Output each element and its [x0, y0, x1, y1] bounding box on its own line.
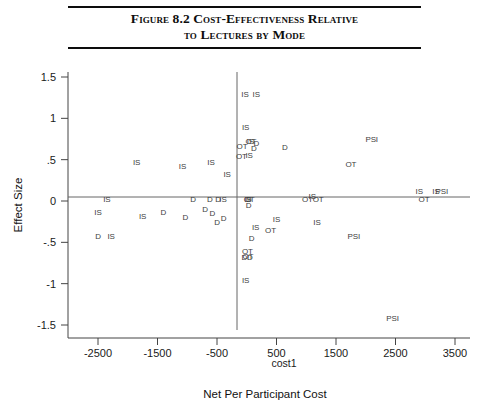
data-markers-group: ISISISISISISISISISISISISISISISISISISISIS… — [94, 90, 448, 324]
x-tick-label: 3500 — [443, 347, 467, 359]
y-tick-label: -1 — [46, 278, 56, 290]
data-point-OT: OT — [265, 226, 276, 235]
data-point-IS: IS — [223, 170, 230, 179]
figure-title-block: Figure 8.2 Cost-Effectiveness Relative t… — [68, 6, 421, 49]
data-point-D: D — [190, 195, 196, 204]
x-tick-label: 1500 — [324, 347, 348, 359]
page-title: Figure 8.2 Cost-Effectiveness Relative t… — [68, 8, 421, 46]
data-point-PSI: PSI — [348, 232, 361, 241]
data-point-D: D — [95, 232, 101, 241]
data-point-IS: IS — [242, 276, 249, 285]
figure-container: Figure 8.2 Cost-Effectiveness Relative t… — [0, 0, 487, 408]
y-axis-ticks: 1.51.50-.5-1-1.5 — [37, 71, 68, 331]
data-point-IS: IS — [179, 162, 186, 171]
reference-lines-group — [68, 72, 470, 330]
data-point-IS: IS — [242, 123, 249, 132]
data-point-D: D — [282, 143, 288, 152]
data-point-D: D — [161, 208, 167, 217]
data-point-D: D — [215, 195, 221, 204]
series-PSI: PSIPSIPSIPSI — [348, 135, 449, 323]
data-point-OT: OT — [313, 195, 324, 204]
data-point-D: D — [249, 234, 255, 243]
data-point-IS: IS — [139, 212, 146, 221]
y-tick-label: -1.5 — [37, 319, 56, 331]
y-tick-label: 1 — [50, 112, 56, 124]
axes-group — [68, 72, 470, 338]
data-point-PSI: PSI — [365, 135, 378, 144]
data-point-D: D — [202, 205, 208, 214]
data-point-IS: IS — [253, 90, 260, 99]
x-tick-label: 2500 — [383, 347, 407, 359]
x-tick-label: -500 — [206, 347, 228, 359]
data-point-OT: OT — [302, 195, 313, 204]
x-axis-ticks: -2500-1500-500500150025003500 — [84, 338, 467, 359]
data-point-OT: OT — [244, 195, 255, 204]
data-point-D: D — [221, 214, 227, 223]
scatter-plot-svg: 1.51.50-.5-1-1.5 -2500-1500-500500150025… — [0, 58, 487, 408]
data-point-IS: IS — [313, 218, 320, 227]
data-point-D: D — [207, 195, 213, 204]
data-point-IS: IS — [207, 158, 214, 167]
y-axis-title: Effect Size — [12, 178, 24, 233]
data-point-OT: OT — [345, 160, 356, 169]
data-point-IS: IS — [133, 158, 140, 167]
chart-plot-area: 1.51.50-.5-1-1.5 -2500-1500-500500150025… — [0, 58, 487, 408]
data-point-IS: IS — [252, 223, 259, 232]
data-point-IS: IS — [273, 215, 280, 224]
x-tick-label: -2500 — [84, 347, 112, 359]
data-point-OT: OT — [237, 142, 248, 151]
data-point-IS: IS — [94, 208, 101, 217]
y-tick-label: .5 — [47, 154, 56, 166]
y-tick-label: -.5 — [43, 236, 56, 248]
series-OT: OTOTOTOTOTOTOTOTOTOTOT — [236, 137, 430, 261]
data-point-D: D — [214, 218, 220, 227]
title-line-2: to Lectures by Mode — [68, 27, 421, 43]
data-point-OT: OT — [236, 152, 247, 161]
data-point-PSI: PSI — [386, 314, 399, 323]
data-point-PSI: PSI — [436, 187, 449, 196]
x-tick-label: -1500 — [143, 347, 171, 359]
title-rule-bottom — [68, 47, 421, 49]
data-point-IS: IS — [241, 90, 248, 99]
data-point-D: D — [183, 213, 189, 222]
data-point-IS: IS — [103, 195, 110, 204]
series-D: DDDDDDDDDDDDDDDDDD — [95, 139, 288, 262]
y-tick-label: 0 — [50, 195, 56, 207]
series-IS: ISISISISISISISISISISISISISISISISISISISIS… — [94, 90, 439, 285]
data-point-IS: IS — [107, 232, 114, 241]
data-point-OT: OT — [419, 195, 430, 204]
data-point-OT: OT — [242, 252, 253, 261]
x-axis-secondary-label: cost1 — [271, 357, 296, 369]
x-axis-title: Net Per Participant Cost — [203, 388, 327, 400]
title-line-1: Figure 8.2 Cost-Effectiveness Relative — [68, 11, 421, 27]
y-tick-label: 1.5 — [41, 71, 56, 83]
